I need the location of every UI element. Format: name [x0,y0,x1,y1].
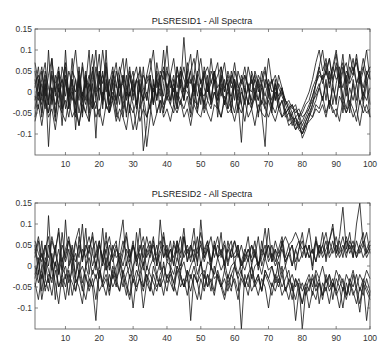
plot-title: PLSRESID1 - All Spectra [152,16,253,26]
x-tick-label: 50 [196,159,206,169]
x-tick-label: 80 [298,159,308,169]
y-tick-label: 0.05 [15,66,32,76]
axes-frame [35,203,370,329]
x-tick-label: 60 [230,159,240,169]
plot-plsresid2: PLSRESID2 - All Spectra 1020304050607080… [13,189,378,343]
y-tick-label: 0.15 [15,198,32,208]
x-tick-label: 20 [95,333,105,343]
x-tick-label: 40 [162,333,172,343]
x-tick-label: 80 [298,333,308,343]
x-tick-label: 100 [363,333,377,343]
y-tick-label: 0.1 [20,45,32,55]
y-tick-label: 0 [27,261,32,271]
x-tick-label: 40 [162,159,172,169]
y-tick-label: -0.1 [17,303,32,313]
y-tick-label: 0.05 [15,240,32,250]
plot-title: PLSRESID2 - All Spectra [152,189,253,199]
x-tick-label: 70 [264,159,274,169]
x-tick-label: 30 [128,159,138,169]
x-tick-label: 70 [264,333,274,343]
x-tick-label: 100 [363,159,377,169]
y-tick-label: -0.05 [13,282,33,292]
x-tick-label: 10 [61,159,71,169]
y-tick-label: 0.15 [15,24,32,34]
x-tick-label: 90 [331,159,341,169]
series-lines [35,37,370,150]
x-tick-label: 20 [95,159,105,169]
y-tick-label: 0.1 [20,219,32,229]
series-lines [35,203,370,329]
x-tick-label: 60 [230,333,240,343]
plot-plsresid1: PLSRESID1 - All Spectra 1020304050607080… [13,16,378,169]
y-tick-label: 0 [27,87,32,97]
x-tick-label: 10 [61,333,71,343]
figure: PLSRESID1 - All Spectra 1020304050607080… [0,0,392,359]
x-tick-label: 30 [128,333,138,343]
x-tick-label: 50 [196,333,206,343]
y-tick-label: -0.1 [17,129,32,139]
x-tick-label: 90 [331,333,341,343]
y-tick-label: -0.05 [13,108,33,118]
